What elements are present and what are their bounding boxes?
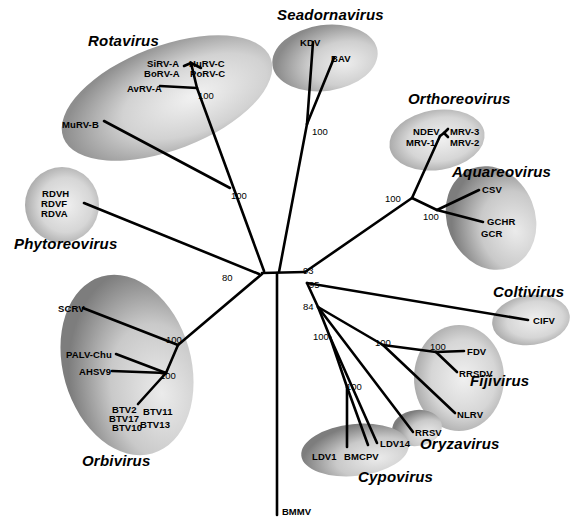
genus-label-coltivirus: Coltivirus [493, 283, 564, 300]
taxon-label-mrv-2: MRV-2 [450, 137, 479, 148]
ellipse-rotavirus [45, 10, 290, 187]
taxon-label-ldv1: LDV1 [312, 451, 337, 462]
genus-label-rotavirus: Rotavirus [88, 32, 159, 49]
taxon-label-murv-b: MuRV-B [62, 119, 99, 130]
genus-label-cypovirus: Cypovirus [358, 468, 433, 485]
genus-label-orbivirus: Orbivirus [82, 452, 151, 469]
taxon-label-scrv: SCRV [58, 303, 85, 314]
taxon-label-cifv: CIFV [533, 315, 555, 326]
bootstrap-orbivirus-inner: 100 [160, 370, 176, 381]
bootstrap-fiji-oryza: 100 [375, 337, 391, 348]
taxon-label-borv-a: BoRV-A [144, 68, 180, 79]
bootstrap-central-93: 93 [303, 265, 314, 276]
bootstrap-fijivirus-inner: 100 [430, 341, 446, 352]
taxon-label-rrsdv: RRSDV [459, 368, 493, 379]
bootstrap-central-84: 84 [303, 301, 314, 312]
ellipse-seadornavirus [268, 18, 382, 98]
taxon-label-bav: BAV [331, 53, 351, 64]
root-label-bmmv: BMMV [282, 506, 311, 517]
branch-orbivirus-stem [178, 274, 262, 345]
taxon-label-btv13: BTV13 [140, 419, 170, 430]
bootstrap-basal-left: 80 [222, 272, 233, 283]
bootstrap-seadornavirus: 100 [312, 126, 328, 137]
taxon-label-avrv-a: AvRV-A [127, 83, 162, 94]
taxon-label-rdva: RDVA [41, 208, 68, 219]
taxon-label-kdv: KDV [300, 37, 320, 48]
taxon-label-bmcpv: BMCPV [344, 451, 379, 462]
taxon-label-btv10: BTV10 [112, 422, 142, 433]
genus-label-seadornavirus: Seadornavirus [277, 6, 384, 23]
taxon-label-gchr: GCHR [487, 216, 515, 227]
bootstrap-ortho-aqua: 100 [385, 193, 401, 204]
branch-backbone [262, 272, 305, 273]
taxon-label-porv-c: PoRV-C [190, 68, 225, 79]
taxon-label-btv11: BTV11 [143, 406, 173, 417]
taxon-label-mrv-3: MRV-3 [450, 126, 479, 137]
ellipse-orbivirus [40, 259, 214, 471]
taxon-label-nlrv: NLRV [457, 409, 483, 420]
branch-oryzavirus-rrsv [318, 307, 413, 432]
branch-aqua-stem [412, 198, 437, 210]
taxon-label-rrsv: RRSV [415, 427, 442, 438]
branch-seadornavirus-stem [279, 124, 307, 272]
bootstrap-cypovirus-inner: 100 [346, 381, 362, 392]
genus-label-phytoreovirus: Phytoreovirus [14, 235, 117, 252]
taxon-label-ldv14: LDV14 [380, 438, 410, 449]
bootstrap-cypovirus-stem: 100 [313, 331, 329, 342]
branch-cypovirus-inner [330, 337, 347, 387]
taxon-label-palv-chu: PALV-Chu [66, 349, 112, 360]
phylogenetic-tree-figure: Rotavirus Seadornavirus Orthoreovirus Aq… [0, 0, 579, 527]
bootstrap-aquareovirus: 100 [423, 211, 439, 222]
taxon-label-fdv: FDV [467, 346, 486, 357]
taxon-label-ndev: NDEV [413, 126, 440, 137]
taxon-label-mrv-1: MRV-1 [406, 137, 435, 148]
taxon-label-csv: CSV [482, 184, 502, 195]
bootstrap-central-95: 95 [309, 279, 320, 290]
genus-label-orthoreovirus: Orthoreovirus [408, 90, 511, 107]
bootstrap-rotavirus-stem: 100 [231, 190, 247, 201]
branch-ortho-aqua-stem [305, 198, 412, 272]
taxon-label-ahsv9: AHSV9 [79, 366, 111, 377]
genus-label-aquareovirus: Aquareovirus [452, 163, 551, 180]
bootstrap-orbivirus-stem: 100 [166, 334, 182, 345]
bootstrap-rotavirus-inner: 100 [198, 90, 214, 101]
taxon-label-gcr: GCR [481, 228, 502, 239]
